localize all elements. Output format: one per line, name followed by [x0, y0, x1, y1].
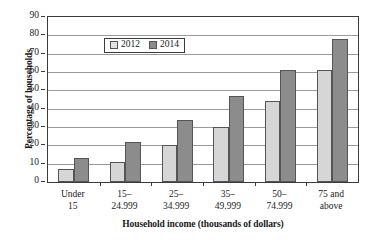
legend-label-2014: 2014 — [160, 40, 179, 50]
y-axis-tick-label: 0 — [34, 176, 39, 186]
y-axis-tick-label: 40 — [30, 103, 40, 113]
y-axis-tick-mark — [41, 126, 45, 127]
y-axis-tick-label: 10 — [30, 158, 40, 168]
bar-group — [255, 17, 307, 182]
y-axis-tick-label: 90 — [30, 11, 40, 21]
bar-group — [48, 17, 100, 182]
y-axis-tick-mark — [41, 89, 45, 90]
y-axis-tick-mark — [41, 144, 45, 145]
bar-2012-4[interactable] — [265, 101, 281, 182]
x-axis-tick-mark — [306, 182, 307, 186]
x-axis-category-label: 35– 49.999 — [202, 189, 254, 212]
plot-area: 2012 2014 — [47, 16, 359, 183]
bar-2014-1[interactable] — [125, 142, 141, 182]
bar-chart: Percentage of households 010203040506070… — [0, 0, 383, 240]
legend-swatch-2014 — [149, 41, 157, 49]
bar-2012-1[interactable] — [110, 162, 126, 182]
y-axis-tick-label: 30 — [30, 121, 40, 131]
x-axis-category-label: 50– 74.999 — [254, 189, 306, 212]
bar-2014-4[interactable] — [280, 70, 296, 182]
bar-2012-0[interactable] — [58, 169, 74, 182]
x-axis-tick-mark — [100, 182, 101, 186]
x-axis-category-labels: Under 1515– 24.99925– 34.99935– 49.99950… — [47, 189, 359, 217]
legend: 2012 2014 — [104, 38, 185, 53]
y-axis-tick-label: 50 — [30, 85, 40, 95]
x-axis-tick-mark — [151, 182, 152, 186]
bars-layer — [48, 17, 358, 182]
bar-2014-2[interactable] — [177, 120, 193, 182]
x-axis-title: Household income (thousands of dollars) — [47, 219, 359, 229]
bar-group — [203, 17, 255, 182]
y-axis-tick-labels: 0102030405060708090 — [0, 16, 45, 183]
bar-2012-3[interactable] — [213, 127, 229, 182]
bar-group — [306, 17, 358, 182]
y-axis-tick-mark — [41, 16, 45, 17]
y-axis-tick-label: 20 — [30, 140, 40, 150]
bar-2012-2[interactable] — [162, 145, 178, 182]
legend-item-2014[interactable]: 2014 — [149, 40, 179, 50]
x-axis-tick-mark — [203, 182, 204, 186]
x-axis-tick-mark — [255, 182, 256, 186]
y-axis-tick-mark — [41, 181, 45, 182]
y-axis-tick-mark — [41, 71, 45, 72]
bar-2014-0[interactable] — [74, 158, 90, 182]
bar-2014-3[interactable] — [229, 96, 245, 182]
bar-2014-5[interactable] — [332, 39, 348, 182]
legend-label-2012: 2012 — [121, 40, 140, 50]
legend-swatch-2012 — [110, 41, 118, 49]
x-axis-category-label: 25– 34.999 — [150, 189, 202, 212]
y-axis-tick-mark — [41, 163, 45, 164]
bar-2012-5[interactable] — [317, 70, 333, 182]
y-axis-tick-label: 70 — [30, 48, 40, 58]
x-axis-category-label: 15– 24.999 — [99, 189, 151, 212]
y-axis-tick-mark — [41, 34, 45, 35]
y-axis-tick-label: 80 — [30, 30, 40, 40]
x-axis-category-label: 75 and above — [305, 189, 357, 212]
y-axis-tick-label: 60 — [30, 66, 40, 76]
y-axis-tick-mark — [41, 53, 45, 54]
legend-item-2012[interactable]: 2012 — [110, 40, 140, 50]
y-axis-tick-mark — [41, 108, 45, 109]
x-axis-category-label: Under 15 — [47, 189, 99, 212]
